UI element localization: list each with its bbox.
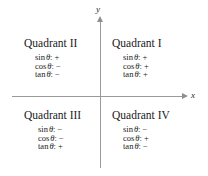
quadrant-rows-i: sinθ:+ cosθ:+ tanθ:+ [112, 53, 162, 79]
quadrant-rows-ii: sinθ:+ cosθ:− tanθ:− [24, 53, 77, 79]
trig-row-tan: tanθ:+ [123, 70, 162, 79]
trig-row-tan: tanθ:− [123, 142, 170, 151]
quadrant-title-i: Quadrant I [112, 37, 162, 50]
x-axis-arrow-icon [182, 93, 188, 99]
quadrant-block-iv: Quadrant IV sinθ:− cosθ:+ tanθ:− [112, 109, 170, 151]
trig-func-name: tan [123, 141, 133, 151]
y-axis-label: y [96, 5, 100, 14]
quadrant-title-iii: Quadrant III [24, 109, 81, 122]
y-axis-line [100, 21, 101, 168]
trig-sign: − [53, 69, 60, 79]
quadrant-block-ii: Quadrant II sinθ:+ cosθ:− tanθ:− [24, 37, 77, 79]
trig-func-name: tan [38, 141, 48, 151]
x-axis-label: x [191, 91, 195, 100]
trig-func-name: tan [35, 69, 45, 79]
trig-sign: + [141, 69, 148, 79]
quadrant-sign-figure: x y Quadrant II sinθ:+ cosθ:− tanθ:− Qua… [0, 0, 208, 176]
quadrant-title-iv: Quadrant IV [112, 109, 170, 122]
trig-sign: − [141, 141, 148, 151]
y-axis-arrow-icon [97, 16, 103, 22]
quadrant-block-iii: Quadrant III sinθ:− cosθ:− tanθ:+ [24, 109, 81, 151]
trig-func-name: tan [123, 69, 133, 79]
trig-sign: + [56, 141, 63, 151]
quadrant-block-i: Quadrant I sinθ:+ cosθ:+ tanθ:+ [112, 37, 162, 79]
quadrant-title-ii: Quadrant II [24, 37, 77, 50]
quadrant-rows-iv: sinθ:− cosθ:+ tanθ:− [112, 125, 170, 151]
trig-row-tan: tanθ:− [35, 70, 77, 79]
x-axis-line [12, 96, 185, 97]
trig-row-tan: tanθ:+ [38, 142, 81, 151]
quadrant-rows-iii: sinθ:− cosθ:− tanθ:+ [24, 125, 81, 151]
